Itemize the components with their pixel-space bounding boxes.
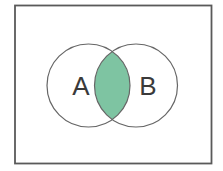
venn-figure: A B (0, 0, 223, 171)
set-b-label: B (139, 71, 156, 101)
venn-diagram: A B (0, 0, 223, 171)
set-a-label: A (72, 71, 90, 101)
